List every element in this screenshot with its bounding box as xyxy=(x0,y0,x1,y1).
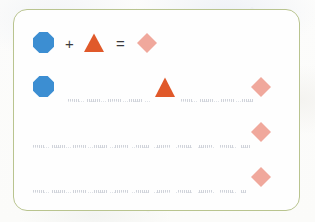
example-blue-octagon xyxy=(33,32,54,53)
row1-answer-blank-2[interactable] xyxy=(181,99,254,102)
row2-answer-blank[interactable] xyxy=(33,145,251,148)
worksheet-page: + = xyxy=(0,0,315,222)
row2-pink-diamond xyxy=(251,122,271,142)
equals-operator: = xyxy=(116,36,125,51)
row1-pink-diamond xyxy=(251,77,271,97)
row1-blue-octagon xyxy=(33,76,54,97)
row3-pink-diamond xyxy=(251,167,271,187)
row1-answer-blank-1[interactable] xyxy=(68,99,150,102)
worksheet-card: + = xyxy=(13,9,300,211)
example-orange-triangle xyxy=(84,33,104,52)
row3-answer-blank[interactable] xyxy=(33,190,246,193)
plus-operator: + xyxy=(65,36,74,51)
row1-orange-triangle xyxy=(155,77,175,97)
example-pink-diamond xyxy=(137,33,157,53)
